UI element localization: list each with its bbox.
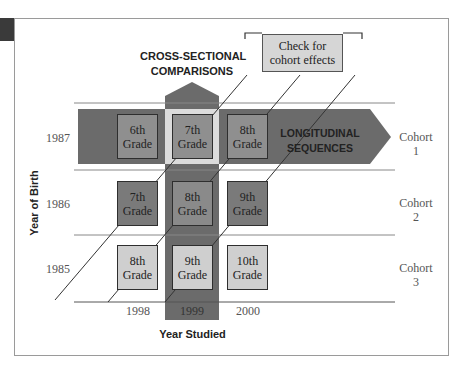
callout-bracket-right <box>343 33 362 39</box>
x-axis-title: Year Studied <box>140 327 245 341</box>
study-year-1999: 1999 <box>174 304 210 318</box>
grade-box-1986-1998: 7thGrade <box>117 181 158 226</box>
birth-year-1986: 1986 <box>43 197 73 211</box>
grade-box-1985-1998: 8thGrade <box>117 245 158 290</box>
grade-box-1986-2000: 9thGrade <box>227 181 268 226</box>
longitudinal-label: LONGITUDINAL SEQUENCES <box>270 126 370 156</box>
grade-box-1987-1998: 6thGrade <box>117 114 158 159</box>
cohort-2-label: Cohort2 <box>398 196 434 224</box>
grade-box-1985-1999: 9thGrade <box>172 245 213 290</box>
study-year-2000: 2000 <box>230 304 266 318</box>
grade-box-1986-1999: 8thGrade <box>172 181 213 226</box>
birth-year-1985: 1985 <box>43 262 73 276</box>
cross-sectional-label: CROSS-SECTIONAL COMPARISONS <box>140 49 244 79</box>
cohort-3-label: Cohort3 <box>398 261 434 289</box>
grade-box-1987-2000: 8thGrade <box>227 114 268 159</box>
callout-line-1: Check for <box>263 39 342 53</box>
callout-bracket-left <box>245 33 262 39</box>
cohort-effects-callout: Check for cohort effects <box>262 34 343 72</box>
y-axis-title: Year of Birth <box>27 161 41 245</box>
grade-box-1987-1999: 7thGrade <box>172 114 213 159</box>
cohort-1-label: Cohort1 <box>398 130 434 158</box>
study-year-1998: 1998 <box>120 304 156 318</box>
callout-line-2: cohort effects <box>263 53 342 67</box>
grade-box-1985-2000: 10thGrade <box>227 245 268 290</box>
birth-year-1987: 1987 <box>43 131 73 145</box>
